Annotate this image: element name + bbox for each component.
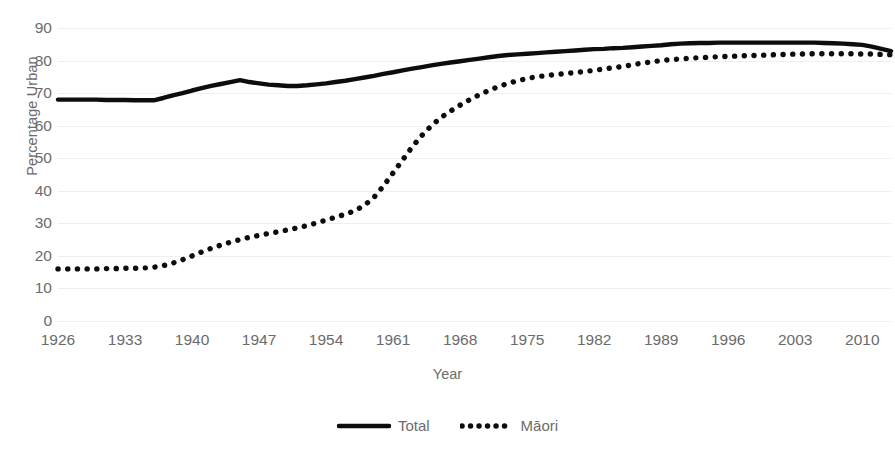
legend-label: Total xyxy=(398,418,430,433)
x-tick-label: 1968 xyxy=(425,331,495,350)
plot-svg xyxy=(58,28,891,321)
y-tick-label: 40 xyxy=(4,183,52,199)
y-tick-label: 60 xyxy=(4,118,52,134)
x-tick-label: 1982 xyxy=(559,331,629,350)
x-tick-label: 1961 xyxy=(358,331,428,350)
y-tick-label: 50 xyxy=(4,150,52,166)
chart-legend: TotalMāori xyxy=(0,418,895,433)
y-axis-tick-labels: 0102030405060708090 xyxy=(0,0,52,340)
x-tick-label: 1954 xyxy=(291,331,361,350)
y-tick-label: 10 xyxy=(4,280,52,296)
y-tick-label: 0 xyxy=(4,313,52,329)
gridline xyxy=(58,321,891,322)
x-tick-label: 1926 xyxy=(23,331,93,350)
legend-entry[interactable]: Total xyxy=(337,418,430,433)
plot-area xyxy=(58,28,891,321)
legend-label: Māori xyxy=(521,418,559,433)
x-tick-label: 2003 xyxy=(760,331,830,350)
legend-entry[interactable]: Māori xyxy=(460,418,559,433)
y-tick-label: 90 xyxy=(4,20,52,36)
series-layer xyxy=(58,43,891,269)
legend-swatch-solid-line-icon xyxy=(337,420,391,432)
x-tick-label: 1940 xyxy=(157,331,227,350)
x-tick-label: 1989 xyxy=(626,331,696,350)
y-tick-label: 20 xyxy=(4,248,52,264)
x-axis-title: Year xyxy=(0,366,895,382)
y-tick-label: 30 xyxy=(4,215,52,231)
series-line-total xyxy=(58,43,891,101)
y-tick-label: 80 xyxy=(4,53,52,69)
series-line-mori xyxy=(58,54,891,269)
y-tick-label: 70 xyxy=(4,85,52,101)
x-tick-label: 1996 xyxy=(693,331,763,350)
x-tick-label: 1947 xyxy=(224,331,294,350)
x-tick-label: 1975 xyxy=(492,331,562,350)
legend-swatch-dotted-line-icon xyxy=(460,420,514,432)
x-tick-label: 1933 xyxy=(90,331,160,350)
urbanisation-line-chart: Percentage Urban 0102030405060708090 192… xyxy=(0,0,895,453)
x-tick-label: 2010 xyxy=(827,331,895,350)
x-axis-tick-labels: 1926193319401947195419611968197519821989… xyxy=(0,331,895,357)
